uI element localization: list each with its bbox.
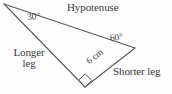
label-shorter-leg: Shorter leg bbox=[113, 66, 160, 77]
triangle-diagram: Hypotenuse Longer leg Shorter leg 6 cm 3… bbox=[0, 0, 172, 94]
label-longer-leg: Longer leg bbox=[9, 47, 49, 69]
label-angle-30: 30° bbox=[27, 12, 41, 23]
right-angle-marker-icon bbox=[79, 74, 92, 87]
label-hypotenuse: Hypotenuse bbox=[67, 2, 119, 13]
label-longer-leg-line2: leg bbox=[9, 58, 49, 69]
label-angle-60: 60° bbox=[109, 33, 123, 44]
